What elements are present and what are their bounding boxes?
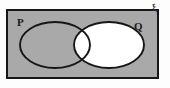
- venn-diagram-figure: P Q ξ: [0, 0, 170, 88]
- set-label-p: P: [17, 17, 24, 28]
- venn-diagram-canvas: [0, 0, 170, 88]
- set-label-q: Q: [134, 21, 143, 32]
